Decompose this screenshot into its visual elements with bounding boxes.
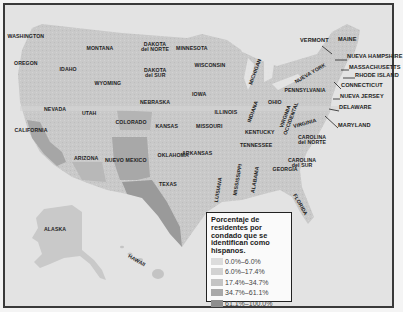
legend-item: 17.4%–34.7% (211, 277, 287, 288)
state-label: ILLINOIS (215, 110, 238, 116)
state-label: DELAWARE (339, 105, 372, 111)
legend-item: 6.0%–17.4% (211, 266, 287, 277)
state-label: RHODE ISLAND (355, 73, 399, 79)
state-label: KENTUCKY (245, 130, 275, 136)
legend-label: 0.0%–6.0% (225, 258, 261, 265)
legend-label: 34.7%–61.1% (225, 289, 269, 296)
state-label: WISCONSIN (195, 63, 226, 69)
state-label: IDAHO (60, 67, 77, 73)
state-label: DAKOTA del SUR (144, 68, 166, 79)
state-label: WASHINGTON (8, 34, 45, 40)
state-label: IOWA (192, 92, 206, 98)
state-label: OHIO (268, 100, 282, 106)
legend-label: 17.4%–34.7% (225, 279, 269, 286)
state-label: NUEVA JERSEY (340, 94, 384, 100)
state-label: OREGON (14, 61, 38, 67)
state-label: DAKOTA del NORTE (141, 42, 169, 53)
state-label: NUEVO MEXICO (105, 158, 147, 164)
legend-swatch (211, 258, 223, 265)
legend-item: 0.0%–6.0% (211, 256, 287, 267)
legend-label: 6.0%–17.4% (225, 268, 265, 275)
state-label: NEVADA (44, 107, 66, 113)
legend-swatch (211, 289, 223, 296)
state-label: MARYLAND (338, 123, 371, 129)
legend-item: 61.1%–100.0% (211, 298, 287, 309)
state-label: WYOMING (95, 81, 122, 87)
legend-swatch (211, 279, 223, 286)
state-label: MISSOURI (196, 124, 222, 130)
state-label: NUEVA HAMPSHIRE (347, 54, 403, 60)
state-label: GEORGIA (273, 167, 298, 173)
state-label: ALASKA (44, 227, 66, 233)
state-label: MAINE (338, 37, 357, 43)
state-label: OKLAHOMA (158, 153, 189, 159)
state-label: COLORADO (116, 120, 147, 126)
state-label: MINNESOTA (176, 46, 208, 52)
legend-label: 61.1%–100.0% (225, 300, 272, 307)
state-label: CAROLINA del NORTE (298, 135, 326, 146)
legend-swatch (211, 300, 223, 307)
state-label: NEBRASKA (140, 100, 170, 106)
state-label: CALIFORNIA (15, 128, 48, 134)
state-label: UTAH (82, 111, 96, 117)
state-label: PENNSYLVANIA (285, 88, 326, 94)
state-label: TEXAS (159, 182, 177, 188)
state-label: KANSAS (156, 124, 179, 130)
state-label: MASSACHUSETTS (349, 65, 401, 71)
state-label: CONNECTICUT (341, 83, 383, 89)
legend-title: Porcentaje de residentes por condado que… (211, 216, 287, 255)
state-label: MONTANA (87, 46, 114, 52)
legend-item: 34.7%–61.1% (211, 287, 287, 298)
state-label: VERMONT (300, 38, 329, 44)
legend: Porcentaje de residentes por condado que… (206, 212, 292, 302)
state-label: TENNESSEE (240, 143, 272, 149)
legend-swatch (211, 268, 223, 275)
state-label: ARIZONA (74, 156, 98, 162)
